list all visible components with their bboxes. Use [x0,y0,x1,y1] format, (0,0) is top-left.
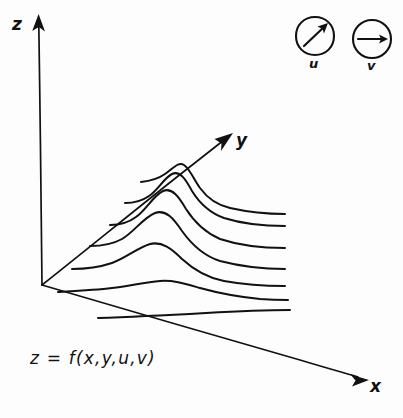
knob-u[interactable] [296,17,334,55]
profile-curve-1 [98,310,290,318]
surface-equation: z = f(x,y,u,v) [30,348,156,368]
y-axis-label: y [236,130,247,150]
knob-u-label: u [309,56,318,71]
y-axis [42,133,233,285]
z-axis [32,14,45,285]
y-axis-line [42,140,224,285]
y-axis-arrowhead [215,133,234,151]
x-axis-label: x [370,376,381,396]
surface-profile-curves [58,164,290,318]
profile-curve-2 [58,281,288,300]
x-axis [42,285,369,387]
profile-curve-3 [72,243,285,286]
knob-v[interactable] [353,20,391,58]
z-axis-label: z [12,14,22,34]
x-axis-arrowhead [351,375,370,387]
knob-u-needle [304,27,324,46]
knob-v-label: v [367,58,375,73]
z-axis-line [39,25,42,285]
diagram-canvas: z y x u v z = f(x,y,u,v) [0,0,403,418]
